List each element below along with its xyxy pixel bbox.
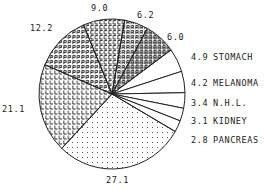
legend-label: KIDNEY (213, 116, 247, 126)
legend-label: N.H.L. (213, 98, 247, 108)
pie-wedges (39, 19, 185, 169)
legend-value: 3.1 (191, 116, 213, 126)
legend-label: MELANOMA (213, 78, 259, 88)
legend-nhl: 3.4N.H.L. (191, 98, 247, 108)
legend-value: 4.2 (191, 78, 213, 88)
legend-value: 2.8 (191, 135, 213, 145)
legend-stomach: 4.9STOMACH (191, 52, 253, 62)
legend-label: STOMACH (213, 52, 253, 62)
slice-label-27-1: 27.1 (106, 175, 129, 185)
slice-label-6-2: 6.2 (137, 10, 154, 20)
legend-melanoma: 4.2MELANOMA (191, 78, 259, 88)
legend-value: 4.9 (191, 52, 213, 62)
legend-value: 3.4 (191, 98, 213, 108)
slice-label-9-0: 9.0 (91, 3, 108, 13)
slice-label-6-0: 6.0 (167, 32, 184, 42)
legend-pancreas: 2.8PANCREAS (191, 135, 259, 145)
slice-label-12-2: 12.2 (30, 23, 53, 33)
legend-kidney: 3.1KIDNEY (191, 116, 247, 126)
legend-label: PANCREAS (213, 135, 259, 145)
slice-label-21-1: 21.1 (2, 104, 25, 114)
